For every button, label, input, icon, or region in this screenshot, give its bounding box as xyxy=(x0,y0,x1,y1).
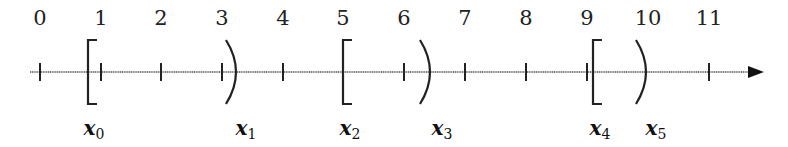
tick-label-9: 9 xyxy=(580,6,593,30)
tick-label-10: 10 xyxy=(635,6,662,30)
label-x5-sub: 5 xyxy=(658,126,667,142)
tick-label-11: 11 xyxy=(696,6,723,30)
label-x5-name: x xyxy=(646,116,658,140)
tick-label-6: 6 xyxy=(397,6,410,30)
tick-label-0: 0 xyxy=(33,6,46,30)
tick-label-1: 1 xyxy=(94,6,107,30)
number-line-diagram: 0 1 2 3 4 5 6 7 8 9 10 11 x0 x1 x2 x3 x4… xyxy=(0,0,788,147)
label-x0-name: x xyxy=(84,116,96,140)
tick-label-4: 4 xyxy=(276,6,289,30)
number-line-graphic xyxy=(0,0,788,147)
label-x3-sub: 3 xyxy=(444,126,453,142)
tick-label-5: 5 xyxy=(336,6,349,30)
label-x0-sub: 0 xyxy=(96,126,105,142)
label-x2-name: x xyxy=(340,116,352,140)
label-x4: x4 xyxy=(590,116,611,142)
label-x2-sub: 2 xyxy=(352,126,361,142)
label-x1-sub: 1 xyxy=(248,126,257,142)
label-x0: x0 xyxy=(84,116,105,142)
tick-label-8: 8 xyxy=(519,6,532,30)
tick-label-7: 7 xyxy=(458,6,471,30)
label-x1-name: x xyxy=(236,116,248,140)
label-x4-name: x xyxy=(590,116,602,140)
label-x3: x3 xyxy=(432,116,453,142)
label-x4-sub: 4 xyxy=(602,126,611,142)
label-x5: x5 xyxy=(646,116,667,142)
label-x3-name: x xyxy=(432,116,444,140)
label-x2: x2 xyxy=(340,116,361,142)
label-x1: x1 xyxy=(236,116,257,142)
tick-label-3: 3 xyxy=(215,6,228,30)
axis-arrow-icon xyxy=(748,66,764,78)
tick-label-2: 2 xyxy=(154,6,167,30)
